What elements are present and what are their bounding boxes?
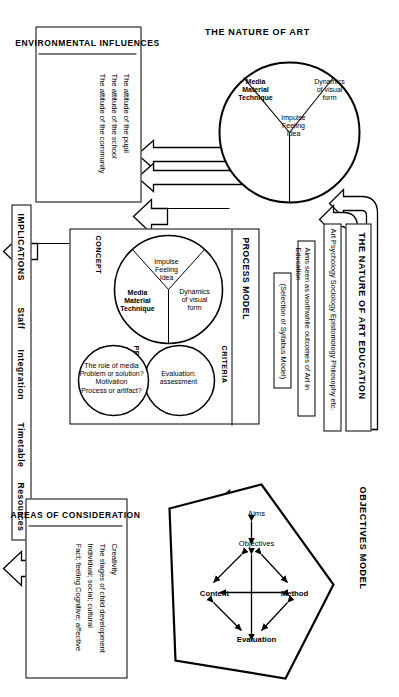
environmental-influences-panel: ENVIRONMENTAL INFLUENCES The attitude of…	[35, 26, 141, 202]
implications-item-resources: Resources	[15, 482, 25, 531]
nature-of-art-heading: THE NATURE OF ART	[167, 18, 347, 44]
areas-item-0: Creativity	[108, 543, 118, 575]
concept-label: CONCEPT	[93, 235, 102, 274]
concept-segment-media: Media Material Technique	[118, 283, 156, 319]
noa-segment-media: Media Material Technique	[231, 70, 279, 110]
environmental-influences-item-0: The attitude of the pupil	[120, 73, 130, 152]
diagram-canvas: THE NATURE OF ART Dynamics of visual for…	[0, 0, 399, 697]
environmental-influences-heading: ENVIRONMENTAL INFLUENCES	[15, 37, 159, 47]
noa-segment-dynamics: Dynamics of visual form	[307, 70, 351, 110]
syllabus-box-text: (Selection of Syllabus Model)	[278, 283, 287, 379]
implications-item-timetable: Timetable	[15, 422, 25, 467]
concept-group: CONCEPT Dynamics of visual form Impulse …	[76, 235, 226, 339]
nature-of-art-education-subheading: Art Psychology Sociology Epistomology Ph…	[328, 228, 337, 410]
objectives-model-heading-wrap: OBJECTIVES MODEL	[347, 486, 371, 636]
areas-of-consideration-panel: AREAS OF CONSIDERATION Creativity The st…	[25, 498, 127, 678]
noa-segment-impulse-label: Impulse Feeling Idea	[267, 114, 319, 139]
syllabus-box: (Selection of Syllabus Model)	[273, 272, 291, 388]
concept-segment-dynamics: Dynamics of visual form	[176, 283, 212, 317]
objectives-pentagon	[139, 478, 339, 688]
objectives-node-evaluation: Evaluation	[247, 622, 265, 656]
procedure-criteria-group: CRITERIA Evaluation: assessment PROCEDUR…	[74, 341, 228, 421]
objectives-node-content-label: Content	[199, 589, 228, 598]
concept-segment-media-label: Media Material Technique	[113, 289, 161, 314]
noa-segment-impulse: Impulse Feeling Idea	[271, 106, 315, 146]
areas-item-2: Individual; social; cultural	[84, 543, 94, 627]
objectives-node-objectives: Objectives	[247, 526, 265, 560]
aims-box-text: Aims seen as worthwhile outcomes of Art …	[293, 247, 311, 415]
implications-bar: IMPLICATIONS Staff Integration Timetable…	[11, 204, 31, 540]
objectives-node-content: Content	[205, 576, 223, 610]
process-model-panel: PROCESS MODEL CONCEPT Dynamics of visual…	[69, 228, 259, 424]
criteria-circle-text-wrap: Evaluation: assessment	[158, 357, 198, 399]
objectives-node-method: Method	[285, 576, 303, 610]
objectives-model-heading: OBJECTIVES MODEL	[357, 486, 367, 589]
objectives-node-objectives-label: Objectives	[238, 539, 273, 548]
areas-item-1: The stages of child development	[96, 543, 106, 652]
criteria-circle-text: Evaluation: assessment	[149, 370, 207, 386]
objectives-node-evaluation-label: Evaluation	[236, 635, 275, 644]
nature-of-art-education-sub-panel: Art Psychology Sociology Epistomology Ph…	[323, 223, 341, 431]
objectives-node-method-label: Method	[280, 589, 308, 598]
concept-segment-impulse: Impulse Feeling Idea	[148, 253, 184, 287]
objectives-node-aims-label: Aims	[248, 509, 265, 518]
process-model-header-divider	[231, 229, 232, 425]
procedure-circle-text-wrap: The role of media Problem or solution? M…	[90, 355, 132, 401]
areas-item-3: Fact; feeling Cognitive; affective	[72, 543, 82, 651]
implications-item-staff: Staff	[15, 307, 25, 329]
nature-of-art-heading-text: THE NATURE OF ART	[205, 26, 310, 36]
implications-item-integration: Integration	[15, 349, 25, 400]
areas-of-consideration-heading: AREAS OF CONSIDERATION	[10, 509, 140, 519]
noa-segment-dynamics-label: Dynamics of visual form	[303, 78, 355, 103]
nature-of-art-education-panel: THE NATURE OF ART EDUCATION	[345, 223, 371, 431]
diagram-landscape-content: THE NATURE OF ART Dynamics of visual for…	[0, 0, 399, 697]
concept-segment-impulse-label: Impulse Feeling Idea	[143, 258, 189, 283]
nature-of-art-education-heading: THE NATURE OF ART EDUCATION	[356, 232, 366, 399]
criteria-label: CRITERIA	[219, 345, 228, 383]
environmental-influences-item-1: The attitude of the school	[108, 73, 118, 158]
concept-segment-dynamics-label: Dynamics of visual form	[171, 288, 217, 313]
implications-heading: IMPLICATIONS	[15, 213, 25, 280]
environmental-influences-item-2: The attitude of the community	[96, 73, 106, 173]
aims-box: Aims seen as worthwhile outcomes of Art …	[297, 240, 315, 416]
procedure-circle-text: The role of media Problem or solution? M…	[76, 362, 146, 395]
process-model-heading: PROCESS MODEL	[240, 237, 250, 319]
objectives-node-aims: Aims	[247, 496, 265, 530]
noa-segment-media-label: Media Material Technique	[228, 78, 282, 103]
